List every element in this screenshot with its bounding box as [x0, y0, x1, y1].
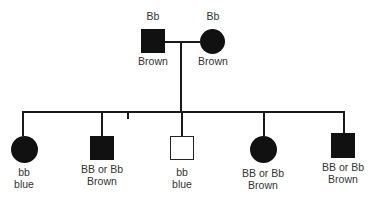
father-symbol — [141, 29, 165, 53]
child2-phenotype: Brown — [62, 175, 142, 187]
child4-phenotype: Brown — [223, 179, 303, 191]
child5-branch — [343, 111, 345, 133]
child2-genotype: BB or Bb — [62, 163, 142, 175]
child5-phenotype: Brown — [303, 173, 383, 185]
child3-branch — [181, 111, 183, 136]
child1-symbol — [11, 136, 38, 163]
child1-branch — [22, 111, 24, 136]
child2-branch — [101, 111, 103, 136]
child1-phenotype: blue — [0, 178, 64, 190]
child4-branch — [263, 111, 265, 136]
child3-genotype: bb — [142, 166, 222, 178]
child2-symbol — [90, 136, 114, 160]
child1-genotype: bb — [0, 166, 64, 178]
mother-phenotype: Brown — [173, 55, 253, 67]
mother-genotype: Bb — [173, 10, 253, 22]
child4-genotype: BB or Bb — [223, 167, 303, 179]
mother-symbol — [200, 29, 225, 54]
marriage-line — [165, 41, 201, 43]
child3-symbol — [170, 136, 194, 160]
descent-line — [180, 41, 182, 111]
sibship-tick — [127, 111, 129, 119]
sibship-line — [22, 111, 344, 113]
child3-phenotype: blue — [142, 178, 222, 190]
child5-symbol — [331, 133, 355, 158]
child5-genotype: BB or Bb — [303, 161, 383, 173]
child4-symbol — [250, 136, 277, 163]
